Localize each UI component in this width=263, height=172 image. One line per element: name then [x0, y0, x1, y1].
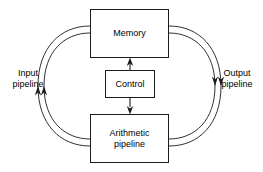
output-pipeline-label: Output pipeline [213, 68, 261, 90]
control-to-arithmetic-arrow [127, 98, 133, 115]
control-box-label: Control [115, 79, 144, 90]
pipelined-computer-diagram: Memory Control Arithmetic pipeline Input… [0, 0, 263, 172]
arithmetic-pipeline-box-label: Arithmetic pipeline [109, 128, 149, 150]
control-box: Control [105, 70, 155, 98]
memory-box-label: Memory [113, 28, 146, 39]
memory-box: Memory [90, 9, 169, 58]
arithmetic-pipeline-box: Arithmetic pipeline [90, 114, 169, 163]
output-pipeline-inner-arc [169, 33, 215, 139]
control-to-memory-arrow [127, 58, 133, 71]
input-pipeline-label: Input pipeline [5, 68, 51, 90]
